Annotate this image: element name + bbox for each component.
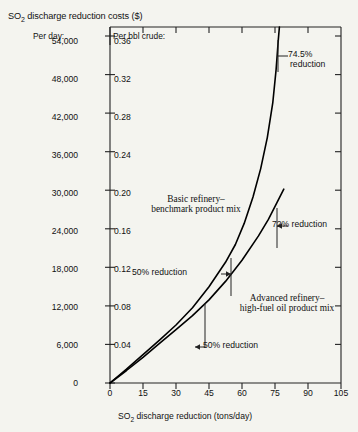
plot-area (0, 0, 358, 432)
reduction-72-arrowhead (277, 223, 282, 229)
x-axis-ticks-bottom (110, 383, 341, 389)
curve-basic-refinery (110, 27, 279, 383)
x-axis-ticks-top (143, 27, 308, 33)
reduction-74-5-marker (278, 40, 288, 72)
reduction-50-advanced-marker (195, 303, 205, 350)
so2-cost-chart: SO2 discharge reduction costs ($) Per da… (0, 0, 358, 432)
curve-advanced-refinery (110, 189, 284, 383)
y-axis-ticks-right (335, 36, 341, 344)
reduction-50-advanced-arrowhead (195, 344, 200, 350)
reduction-72-marker (277, 208, 288, 248)
axis-frame (110, 27, 341, 383)
